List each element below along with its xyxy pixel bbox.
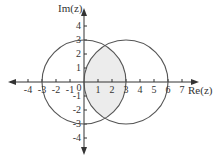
y-tick-label: -2: [73, 104, 81, 115]
y-axis-label: Im(z): [58, 2, 83, 15]
x-tick-label: 2: [110, 84, 115, 95]
y-tick-label: 3: [76, 34, 81, 45]
y-tick-label: 1: [76, 62, 81, 73]
x-tick-label: 3: [124, 84, 129, 95]
x-tick-label: 6: [166, 84, 171, 95]
y-tick-label: -4: [73, 132, 81, 143]
x-tick-label: 4: [138, 84, 143, 95]
x-tick-label: -3: [38, 84, 46, 95]
x-axis-label: Re(z): [188, 84, 213, 97]
y-axis-down-arrow-icon: [81, 147, 87, 155]
y-tick-label: -1: [73, 90, 81, 101]
complex-plane-diagram: -4 -3 -2 -1 0 1 2 3 4 5 6 7 Re(z) 1 2 3 …: [0, 0, 214, 158]
x-tick-label: 5: [152, 84, 157, 95]
y-tick-label: 2: [76, 48, 81, 59]
x-tick-label: -4: [24, 84, 32, 95]
x-tick-label: -2: [52, 84, 60, 95]
y-tick-label: 4: [76, 20, 81, 31]
x-tick-label: 7: [180, 84, 185, 95]
y-tick-label: -3: [73, 118, 81, 129]
x-axis-left-arrow-icon: [8, 79, 16, 85]
x-tick-label: 1: [96, 84, 101, 95]
